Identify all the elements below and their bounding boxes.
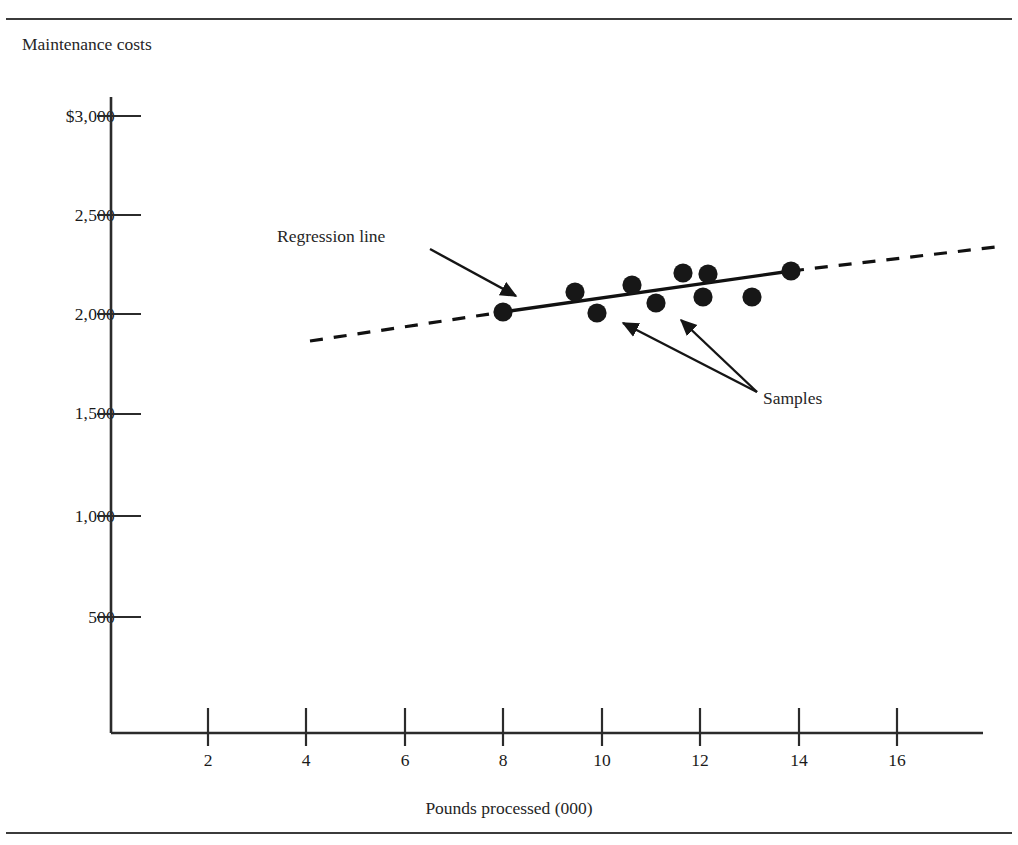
data-point-marker [698,264,717,283]
data-point-marker [646,293,665,312]
figure-panel: Maintenance costs Pounds processed (000)… [0,0,1018,845]
data-point-marker [742,287,761,306]
data-point-marker [781,261,800,280]
axis-lines [111,97,983,733]
arrow-to-regression-line [430,249,516,296]
arrow-to-sample-right [681,320,757,392]
data-point-marker [587,303,606,322]
x-axis-ticks [208,708,897,746]
data-point-marker [622,275,641,294]
data-point-marker [493,302,512,321]
arrow-to-sample-left [623,323,757,392]
y-axis-ticks [97,116,141,617]
regression-line-dashed-right [791,247,996,271]
regression-line-dashed-left [310,312,503,341]
chart-plot-area [0,0,1018,845]
data-point-marker [693,287,712,306]
data-point-marker [673,263,692,282]
data-point-marker [565,282,584,301]
